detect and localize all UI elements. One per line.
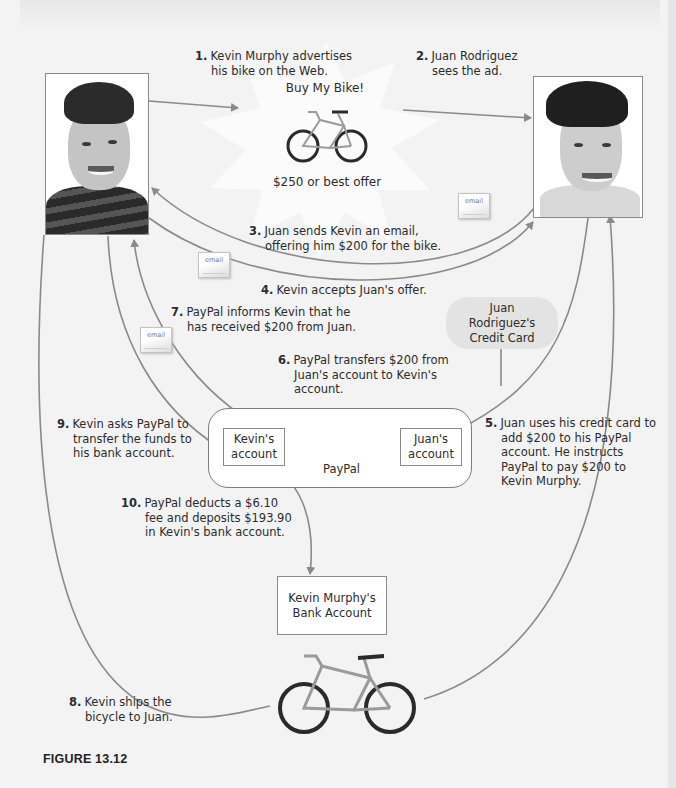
shipped-bicycle-icon: [272, 648, 422, 738]
ad-title: Buy My Bike!: [270, 81, 380, 95]
bicycle-icon: [286, 106, 368, 164]
paypal-label: PayPal: [323, 462, 360, 476]
bank-account-node: Kevin Murphy's Bank Account: [277, 576, 387, 635]
juan-eye-left: [574, 143, 583, 147]
kevin-shirt: [46, 186, 148, 235]
step-10-label: 10.PayPal deducts a $6.10 fee and deposi…: [121, 496, 295, 540]
kevin-eye-left: [82, 142, 91, 146]
email-icon-step7: email: [140, 327, 172, 353]
juan-eye-right: [602, 143, 611, 147]
step-6-label: 6.PayPal transfers $200 from Juan's acco…: [278, 353, 466, 397]
step-9-label: 9.Kevin asks PayPal to transfer the fund…: [57, 417, 203, 461]
kevin-photo: [45, 73, 149, 235]
step-2-label: 2.Juan Rodriguez sees the ad.: [416, 49, 542, 78]
kevin-eye-right: [108, 140, 117, 144]
juan-photo: [533, 76, 643, 218]
step-7-label: 7.PayPal informs Kevin that he has recei…: [171, 305, 367, 334]
juan-paypal-account: Juan's account: [400, 428, 462, 466]
step-3-label: 3.Juan sends Kevin an email, offering hi…: [249, 224, 465, 253]
step-8-label: 8.Kevin ships the bicycle to Juan.: [69, 695, 195, 724]
step-4-label: 4.Kevin accepts Juan's offer.: [261, 283, 477, 298]
kevin-paypal-account: Kevin's account: [223, 428, 285, 466]
figure-caption: FIGURE 13.12: [43, 752, 127, 766]
kevin-smile: [88, 166, 114, 175]
email-icon-step4: email: [198, 252, 230, 278]
step-1-label: 1.Kevin Murphy advertises his bike on th…: [195, 49, 361, 78]
email-icon-step3: email: [458, 193, 490, 219]
juan-smile: [582, 173, 612, 182]
ad-price: $250 or best offer: [270, 175, 384, 189]
kevin-hair: [64, 82, 134, 124]
juan-hair: [546, 81, 628, 127]
credit-card-node: Juan Rodriguez's Credit Card: [446, 297, 558, 349]
step-5-label: 5.Juan uses his credit card to add $200 …: [485, 416, 657, 489]
